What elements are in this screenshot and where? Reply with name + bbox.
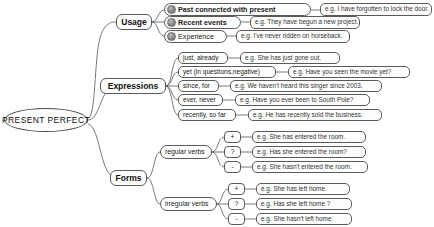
usage-item-experience[interactable]: Experience <box>164 30 227 43</box>
circle-badge-icon <box>167 32 176 41</box>
op-symbol: - <box>235 216 237 223</box>
usage-example-past-connected: e.g. I have forgotten to lock the door. <box>320 3 432 16</box>
example-text: e.g. Has she entered the room? <box>257 149 347 155</box>
root-node-present-perfect[interactable]: PRESENT PERFECT <box>4 108 88 132</box>
usage-item-recent-events[interactable]: Recent events <box>164 16 241 29</box>
verb-group-label: regular verbs <box>165 149 205 156</box>
root-label: PRESENT PERFECT <box>2 116 90 125</box>
forms-group-regular-verbs[interactable]: regular verbs <box>160 145 212 159</box>
irregular-example-negative: e.g. She hasn't left home. <box>256 213 352 225</box>
circle-badge-icon <box>167 18 176 27</box>
branch-expressions[interactable]: Expressions <box>100 78 166 94</box>
forms-group-irregular-verbs[interactable]: irregular verbs <box>160 197 217 211</box>
irregular-op-negative[interactable]: - <box>228 213 245 225</box>
keyword-label: yet (in questions,negative) <box>183 69 260 76</box>
verb-group-label: irregular verbs <box>165 201 208 208</box>
regular-example-negative: e.g. She hasn't entered the room. <box>252 161 368 173</box>
keyword-label: ever, never <box>183 97 216 104</box>
keyword-label: just, already <box>183 55 219 62</box>
example-text: e.g. Has she left home ? <box>261 201 330 207</box>
regular-op-negative[interactable]: - <box>224 161 241 173</box>
example-text: e.g. They have begun a new project. <box>255 19 358 25</box>
example-text: e.g. Have you seen the movie yet? <box>293 69 391 75</box>
expression-keyword-recently-so-far[interactable]: recently, so far <box>178 109 236 121</box>
keyword-label: since, for <box>183 83 210 90</box>
example-text: e.g. She has left home. <box>261 186 327 192</box>
usage-item-label: Recent events <box>178 19 227 26</box>
regular-op-affirmative[interactable]: + <box>224 131 241 143</box>
keyword-label: recently, so far <box>183 112 226 119</box>
branch-forms[interactable]: Forms <box>110 170 147 186</box>
circle-badge-icon <box>167 5 176 14</box>
example-text: e.g. He has recently sold the business. <box>253 112 363 118</box>
expression-keyword-ever-never[interactable]: ever, never <box>178 94 223 106</box>
usage-item-label: Experience <box>178 33 214 40</box>
usage-item-past-connected[interactable]: Past connected with present <box>164 3 311 16</box>
example-text: e.g. We haven't heard this singer since … <box>235 83 363 89</box>
expression-example-yet: e.g. Have you seen the movie yet? <box>288 66 410 78</box>
expression-example-just-already: e.g. She has just gone out. <box>240 52 340 64</box>
example-text: e.g. She hasn't left home. <box>261 216 333 222</box>
usage-example-recent-events: e.g. They have begun a new project. <box>250 16 360 29</box>
example-text: e.g. She has just gone out. <box>245 55 321 61</box>
regular-example-question: e.g. Has she entered the room? <box>252 146 366 158</box>
example-text: e.g. I have forgotten to lock the door. <box>325 6 429 12</box>
branch-usage-label: Usage <box>121 18 147 27</box>
expression-example-recently-so-far: e.g. He has recently sold the business. <box>248 109 382 121</box>
branch-usage[interactable]: Usage <box>116 14 152 30</box>
example-text: e.g. Have you ever been to South Pole? <box>240 97 353 103</box>
irregular-op-question[interactable]: ? <box>228 198 245 210</box>
expression-example-since-for: e.g. We haven't heard this singer since … <box>230 80 382 92</box>
op-symbol: ? <box>235 201 239 208</box>
branch-forms-label: Forms <box>116 174 142 183</box>
irregular-op-affirmative[interactable]: + <box>228 183 245 195</box>
expression-keyword-just-already[interactable]: just, already <box>178 52 228 64</box>
regular-example-affirmative: e.g. She has entered the room. <box>252 131 366 143</box>
example-text: e.g. She has entered the room. <box>257 134 345 140</box>
op-symbol: + <box>231 134 235 141</box>
op-symbol: + <box>235 186 239 193</box>
irregular-example-question: e.g. Has she left home ? <box>256 198 352 210</box>
expression-keyword-yet[interactable]: yet (in questions,negative) <box>178 66 276 78</box>
example-text: e.g. She hasn't entered the room. <box>257 164 352 170</box>
example-text: e.g. I've never ridden on horseback. <box>241 33 342 39</box>
mind-map-canvas: PRESENT PERFECT Usage Past connected wit… <box>0 0 434 227</box>
usage-item-label: Past connected with present <box>178 6 275 13</box>
expression-keyword-since-for[interactable]: since, for <box>178 80 219 92</box>
op-symbol: - <box>231 164 233 171</box>
op-symbol: ? <box>231 149 235 156</box>
regular-op-question[interactable]: ? <box>224 146 241 158</box>
expression-example-ever-never: e.g. Have you ever been to South Pole? <box>235 94 370 106</box>
irregular-example-affirmative: e.g. She has left home. <box>256 183 350 195</box>
usage-example-experience: e.g. I've never ridden on horseback. <box>236 30 350 43</box>
branch-expressions-label: Expressions <box>108 82 159 91</box>
